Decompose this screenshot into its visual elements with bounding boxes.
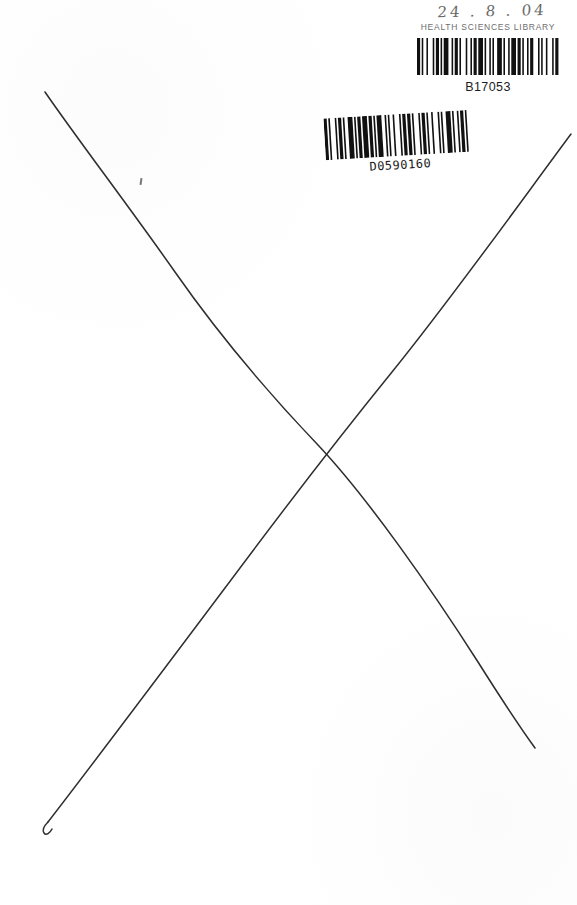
barcode-primary: B17053	[408, 38, 568, 94]
paper-texture	[0, 0, 577, 905]
x-stroke-ascending	[48, 134, 571, 822]
barcode-secondary-bars	[323, 110, 473, 161]
barcode-secondary: D0590160	[322, 110, 475, 177]
ink-speck	[140, 178, 143, 185]
library-stamp-block: 24 . 8 . 04 HEALTH SCIENCES LIBRARY B170…	[408, 2, 568, 94]
x-stroke-descending	[45, 92, 535, 748]
cancellation-x	[0, 0, 577, 905]
x-stroke-hook	[43, 822, 52, 834]
library-name-label: HEALTH SCIENCES LIBRARY	[408, 22, 568, 32]
barcode-primary-bars	[417, 38, 560, 75]
scanned-page: 24 . 8 . 04 HEALTH SCIENCES LIBRARY B170…	[0, 0, 577, 905]
handwritten-date: 24 . 8 . 04	[415, 0, 568, 21]
faint-smudge	[210, 587, 370, 629]
barcode-primary-number: B17053	[408, 80, 568, 94]
